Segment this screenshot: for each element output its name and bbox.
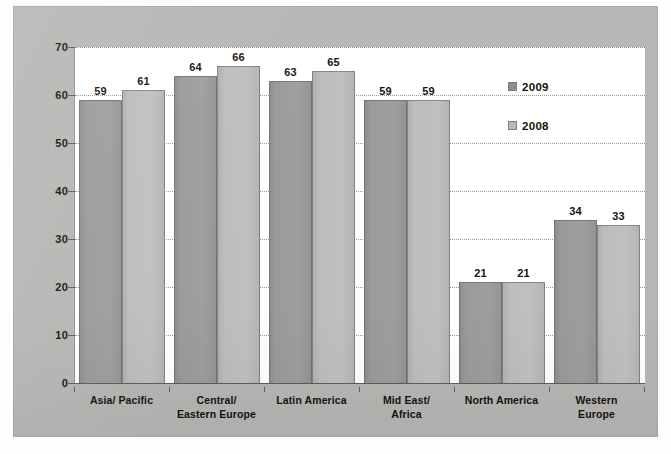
scanned-page: 70 60 50 40 30 20 10 0 (0, 0, 671, 454)
bar-value-north-america-2008: 21 (517, 267, 530, 279)
legend-label-2008: 2008 (522, 120, 549, 132)
x-label-mid-east-africa: Mid East/ Africa (359, 393, 454, 421)
legend-swatch-icon-2009 (508, 82, 517, 91)
x-axis-line (74, 383, 645, 384)
bar-value-mid-east-africa-2009: 59 (379, 85, 392, 97)
y-axis: 70 60 50 40 30 20 10 0 (28, 47, 68, 383)
bar-group-central-eastern-europe: 64 66 (172, 47, 263, 383)
x-tick-mark-5 (549, 387, 550, 392)
y-tick-label-30: 30 (34, 233, 68, 245)
bar-latin-america-2009[interactable]: 63 (269, 81, 312, 383)
bar-group-asia-pacific: 59 61 (77, 47, 168, 383)
bar-value-western-europe-2008: 33 (612, 210, 625, 222)
x-label-north-america: North America (454, 393, 549, 407)
bar-value-latin-america-2008: 65 (327, 56, 340, 68)
y-tick-label-70: 70 (34, 41, 68, 53)
bar-value-north-america-2009: 21 (474, 267, 487, 279)
bar-mid-east-africa-2009[interactable]: 59 (364, 100, 407, 383)
bar-value-asia-pacific-2009: 59 (94, 85, 107, 97)
bar-mid-east-africa-2008[interactable]: 59 (407, 100, 450, 383)
bar-latin-america-2008[interactable]: 65 (312, 71, 355, 383)
x-label-central-eastern-europe-line2: Eastern Europe (169, 407, 264, 421)
bar-group-mid-east-africa: 59 59 (362, 47, 453, 383)
x-label-asia-pacific-line1: Asia/ Pacific (74, 393, 169, 407)
x-label-western-europe-line2: Europe (549, 407, 644, 421)
x-tick-mark-2 (264, 387, 265, 392)
bar-value-asia-pacific-2008: 61 (137, 75, 150, 87)
x-tick-mark-6 (644, 387, 645, 392)
y-tick-label-10: 10 (34, 329, 68, 341)
y-tick-mark-10 (68, 335, 75, 336)
bar-north-america-2009[interactable]: 21 (459, 282, 502, 383)
x-label-latin-america: Latin America (264, 393, 359, 407)
x-label-western-europe: Western Europe (549, 393, 644, 421)
y-tick-mark-50 (68, 143, 75, 144)
y-tick-label-0: 0 (34, 377, 68, 389)
bar-western-europe-2008[interactable]: 33 (597, 225, 640, 383)
x-tick-mark-0 (74, 387, 75, 392)
legend-item-2009[interactable]: 2009 (508, 80, 618, 93)
legend-swatch-icon-2008 (508, 121, 517, 130)
x-tick-mark-4 (454, 387, 455, 392)
x-label-mid-east-africa-line2: Africa (359, 407, 454, 421)
legend-item-2008[interactable]: 2008 (508, 119, 618, 132)
bar-asia-pacific-2008[interactable]: 61 (122, 90, 165, 383)
bar-value-mid-east-africa-2008: 59 (422, 85, 435, 97)
y-tick-mark-30 (68, 239, 75, 240)
y-tick-label-60: 60 (34, 89, 68, 101)
legend-label-2009: 2009 (522, 81, 549, 93)
bar-value-western-europe-2009: 34 (569, 205, 582, 217)
bar-value-central-eastern-europe-2009: 64 (189, 61, 202, 73)
y-tick-mark-60 (68, 95, 75, 96)
x-label-north-america-line1: North America (454, 393, 549, 407)
y-tick-mark-40 (68, 191, 75, 192)
y-tick-label-20: 20 (34, 281, 68, 293)
legend: 2009 2008 (508, 80, 618, 158)
chart-card: 70 60 50 40 30 20 10 0 (13, 6, 658, 437)
y-tick-label-40: 40 (34, 185, 68, 197)
x-axis-labels: Asia/ Pacific Central/ Eastern Europe La… (74, 387, 645, 439)
x-label-central-eastern-europe: Central/ Eastern Europe (169, 393, 264, 421)
x-tick-mark-3 (359, 387, 360, 392)
x-label-central-eastern-europe-line1: Central/ (169, 393, 264, 407)
x-label-latin-america-line1: Latin America (264, 393, 359, 407)
x-label-western-europe-line1: Western (549, 393, 644, 407)
x-tick-mark-1 (169, 387, 170, 392)
bar-group-latin-america: 63 65 (267, 47, 358, 383)
plot-area: 59 61 64 66 (74, 47, 645, 383)
y-tick-mark-20 (68, 287, 75, 288)
bar-north-america-2008[interactable]: 21 (502, 282, 545, 383)
y-tick-mark-70 (68, 47, 75, 48)
x-label-mid-east-africa-line1: Mid East/ (359, 393, 454, 407)
bar-asia-pacific-2009[interactable]: 59 (79, 100, 122, 383)
bar-western-europe-2009[interactable]: 34 (554, 220, 597, 383)
x-label-asia-pacific: Asia/ Pacific (74, 393, 169, 407)
y-tick-label-50: 50 (34, 137, 68, 149)
bar-value-central-eastern-europe-2008: 66 (232, 51, 245, 63)
bar-central-eastern-europe-2008[interactable]: 66 (217, 66, 260, 383)
bar-value-latin-america-2009: 63 (284, 66, 297, 78)
bar-central-eastern-europe-2009[interactable]: 64 (174, 76, 217, 383)
